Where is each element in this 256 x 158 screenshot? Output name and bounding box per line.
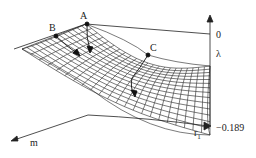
lambda-label: λ	[216, 49, 221, 59]
point-b-label: B	[49, 23, 56, 33]
tick-min: −0.189	[216, 123, 244, 133]
surface-plot	[0, 0, 256, 158]
point-a-label: A	[80, 11, 87, 21]
r1-axis-label: r1	[194, 128, 201, 141]
lambda-axis-arrow-icon	[207, 15, 213, 22]
axes	[11, 15, 213, 141]
m-axis	[14, 115, 88, 140]
m-axis-label: m	[30, 138, 38, 148]
surface-mesh	[22, 24, 210, 135]
m-axis-arrow-icon	[11, 136, 18, 141]
point-c-label: C	[150, 43, 157, 53]
r1-axis	[88, 115, 208, 126]
r1-subscript: 1	[197, 133, 201, 141]
top-edge-line	[86, 24, 210, 34]
tick-zero: 0	[216, 30, 221, 40]
arrow-b-icon	[73, 49, 80, 56]
